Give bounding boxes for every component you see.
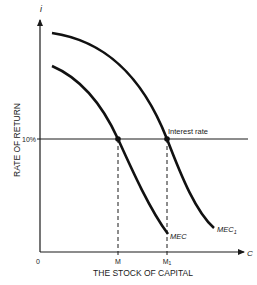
interest-rate-label: Interest rate [168, 127, 208, 136]
mec-curve [52, 66, 168, 234]
origin-label: 0 [36, 258, 40, 265]
mec1-intersection-point [164, 136, 170, 142]
x-tick-m1: M1 [163, 258, 172, 266]
x-axis-title: THE STOCK OF CAPITAL [93, 268, 193, 278]
mec-label: MEC [170, 232, 187, 241]
x-tick-m: M [115, 258, 121, 265]
y-axis-title: RATE OF RETURN [12, 103, 22, 177]
mec-diagram: i C 0 10% Interest rate MEC MEC1 M M1 TH… [0, 0, 257, 285]
x-axis-symbol: C [247, 249, 253, 258]
mec1-label: MEC1 [217, 225, 237, 235]
mec-intersection-point [115, 136, 121, 142]
y-axis-symbol: i [40, 4, 43, 14]
y-tick-10-percent: 10% [22, 136, 36, 143]
